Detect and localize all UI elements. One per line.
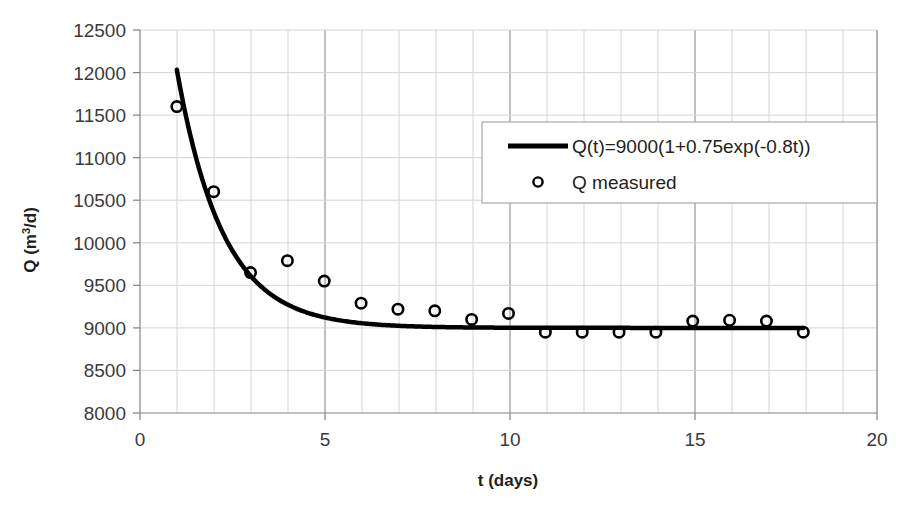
y-tick-label: 10000 xyxy=(73,233,126,254)
svg-text:Q (m3/d): Q (m3/d) xyxy=(20,207,40,273)
legend-label-model: Q(t)=9000(1+0.75exp(-0.8t)) xyxy=(572,136,811,157)
legend: Q(t)=9000(1+0.75exp(-0.8t)) Q measured xyxy=(482,122,877,203)
chart-container: 12500 12000 11500 11000 10500 10000 9500… xyxy=(0,0,923,519)
y-tick-label: 8000 xyxy=(84,403,126,424)
y-tick-label: 9000 xyxy=(84,318,126,339)
x-tick-label: 15 xyxy=(684,429,705,450)
x-axis-title: t (days) xyxy=(478,471,538,490)
x-tick-label: 20 xyxy=(866,429,887,450)
y-tick-label: 11000 xyxy=(75,148,126,169)
y-axis-title-base: Q (m xyxy=(21,234,40,273)
y-tick-label: 10500 xyxy=(73,190,126,211)
x-tick-label: 5 xyxy=(320,429,331,450)
flow-decay-chart: 12500 12000 11500 11000 10500 10000 9500… xyxy=(0,0,923,519)
y-tick-label: 12500 xyxy=(73,20,126,41)
y-tick-label: 9500 xyxy=(84,275,126,296)
y-axis-title: Q (m3/d) xyxy=(20,207,40,273)
y-tick-label: 11500 xyxy=(75,105,126,126)
x-tick-label: 0 xyxy=(135,429,146,450)
y-axis-title-tail: /d) xyxy=(21,207,40,228)
legend-label-measured: Q measured xyxy=(572,172,677,193)
y-tick-label: 12000 xyxy=(73,63,126,84)
legend-box xyxy=(482,122,877,203)
y-tick-label: 8500 xyxy=(84,360,126,381)
x-tick-label: 10 xyxy=(499,429,520,450)
